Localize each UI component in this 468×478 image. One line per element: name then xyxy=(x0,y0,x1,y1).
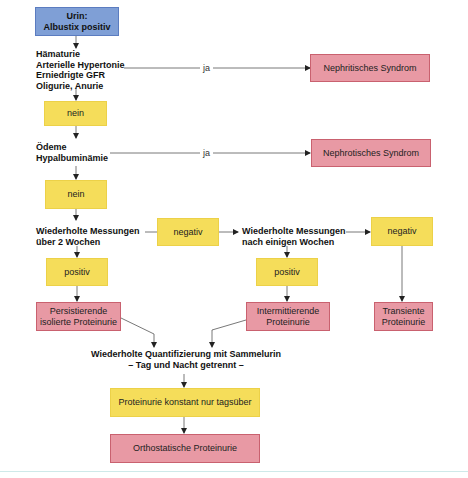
flowchart: Urin: Albustix positiv Hämaturie Arterie… xyxy=(0,0,468,478)
yes-label-nephritic: ja xyxy=(200,63,213,73)
question-collected-urine: Wiederholte Quantifizierung mit Sammelur… xyxy=(88,349,284,370)
decision-no-1: nein xyxy=(44,101,107,126)
question-nephrotic-criteria: Ödeme Hypalbuminämie xyxy=(36,142,108,163)
result-nephritic-syndrome: Nephritisches Syndrom xyxy=(310,54,430,82)
decision-negative-2: negativ xyxy=(371,217,433,246)
yes-label-nephrotic: ja xyxy=(200,148,213,158)
result-nephrotic-syndrome: Nephrotisches Syndrom xyxy=(311,139,431,167)
question-nephritic-criteria: Hämaturie Arterielle Hypertonie Erniedri… xyxy=(36,49,125,91)
decision-negative-1: negativ xyxy=(157,218,219,246)
decision-positive-2: positiv xyxy=(256,258,318,286)
question-repeat-several-weeks: Wiederholte Messungen nach einigen Woche… xyxy=(242,226,345,247)
result-persistent-proteinuria: Persistierende isolierte Proteinurie xyxy=(36,302,121,331)
question-repeat-2-weeks: Wiederholte Messungen über 2 Wochen xyxy=(36,226,139,247)
decision-no-2: nein xyxy=(45,180,107,209)
bottom-divider xyxy=(0,471,468,472)
result-intermittent-proteinuria: Intermittierende Proteinurie xyxy=(246,302,330,331)
result-orthostatic-proteinuria: Orthostatische Proteinurie xyxy=(110,434,260,463)
start-box-albustix: Urin: Albustix positiv xyxy=(35,7,119,36)
decision-daytime-only: Proteinurie konstant nur tagsüber xyxy=(110,388,260,417)
decision-positive-1: positiv xyxy=(46,258,108,286)
result-transient-proteinuria: Transiente Proteinurie xyxy=(374,302,433,331)
